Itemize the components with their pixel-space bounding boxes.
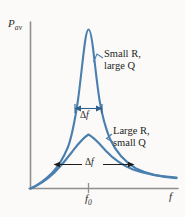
annotation-large-r-text1: Large R, — [113, 125, 150, 136]
bandwidth-narrow-symbol: f — [86, 110, 89, 120]
annotation-small-r-text2: large Q — [104, 60, 135, 71]
annotation-small-r-line2: large Q — [104, 60, 141, 72]
resonance-plot-svg — [0, 0, 185, 217]
resonance-figure: Pav f0 f Small R, large Q Large R, small… — [0, 0, 185, 217]
annotation-small-r-text1: Small R, — [104, 48, 141, 59]
annotation-small-r-line1: Small R, — [104, 48, 141, 60]
bandwidth-label-wide: Δf — [85, 157, 94, 168]
x-axis-label: f — [169, 190, 172, 203]
bandwidth-arrow-wide — [54, 162, 135, 168]
bandwidth-label-narrow: Δf — [80, 110, 89, 121]
bandwidth-wide-symbol: f — [91, 157, 94, 167]
annotation-large-r-line2: small Q — [113, 137, 150, 149]
annotation-large-r-text2: small Q — [113, 137, 146, 148]
x-axis-label-text: f — [169, 190, 172, 202]
y-axis-label-main: P — [8, 17, 15, 29]
y-axis-label-subscript: av — [15, 23, 22, 32]
annotation-small-r-large-q: Small R, large Q — [104, 48, 141, 73]
y-axis-label: Pav — [8, 17, 22, 30]
x-tick-label-subscript: 0 — [88, 198, 92, 207]
curve-large-r-small-q — [31, 135, 177, 189]
annotation-large-r-small-q: Large R, small Q — [113, 125, 150, 150]
annotation-large-r-line1: Large R, — [113, 125, 150, 137]
x-axis-tick-label-f0: f0 — [85, 192, 92, 205]
